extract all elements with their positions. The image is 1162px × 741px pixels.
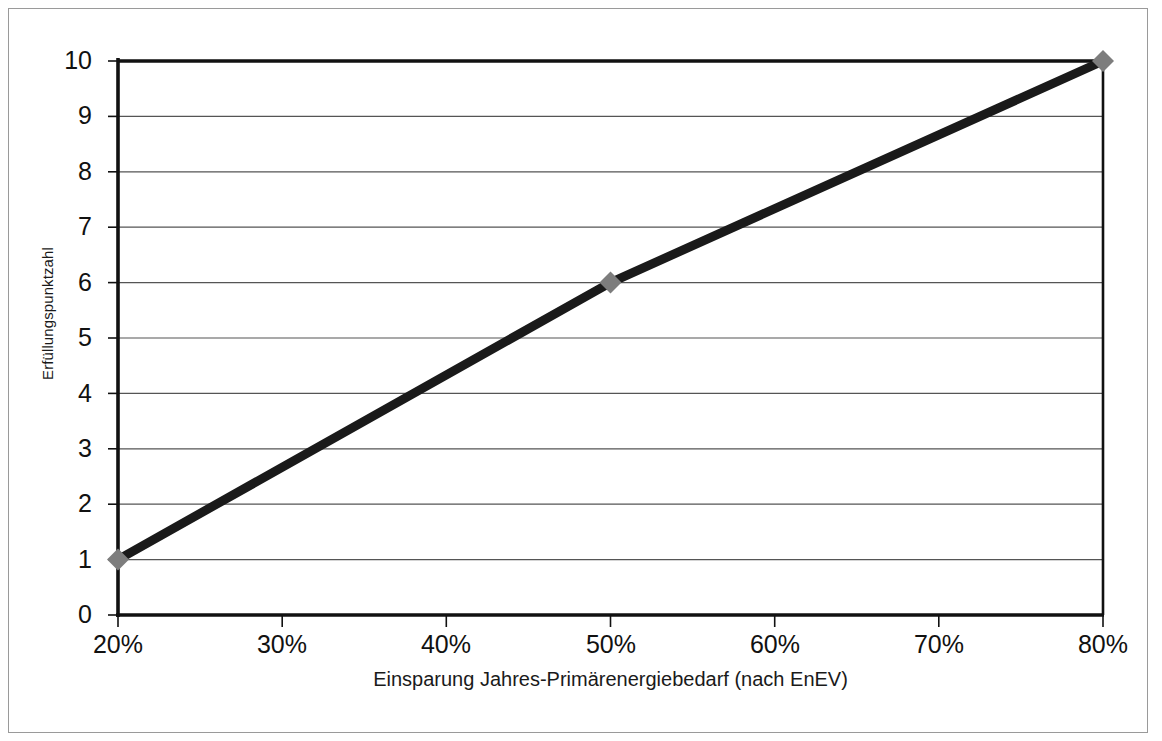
x-axis-title: Einsparung Jahres-Primärenergiebedarf (n… xyxy=(118,668,1103,691)
x-tick-label-70: 70% xyxy=(884,632,994,657)
x-tick-label-80: 80% xyxy=(1048,632,1158,657)
line-chart xyxy=(0,0,1162,741)
y-tick-label-10: 10 xyxy=(46,48,92,73)
chart-page: 10 9 8 7 6 5 4 3 2 1 0 20% 30% 40% 50% 6… xyxy=(0,0,1162,741)
x-tick-label-20: 20% xyxy=(63,632,173,657)
x-tick-label-60: 60% xyxy=(720,632,830,657)
y-tick-label-8: 8 xyxy=(46,159,92,184)
y-tick-label-9: 9 xyxy=(46,103,92,128)
y-axis-title: Erfüllungspunktzahl xyxy=(39,234,56,394)
x-tick-label-40: 40% xyxy=(391,632,501,657)
y-tick-label-3: 3 xyxy=(46,436,92,461)
x-tick-label-50: 50% xyxy=(556,632,666,657)
y-tick-label-2: 2 xyxy=(46,491,92,516)
x-tick-label-30: 30% xyxy=(227,632,337,657)
y-tick-label-1: 1 xyxy=(46,547,92,572)
y-tick-label-0: 0 xyxy=(46,602,92,627)
